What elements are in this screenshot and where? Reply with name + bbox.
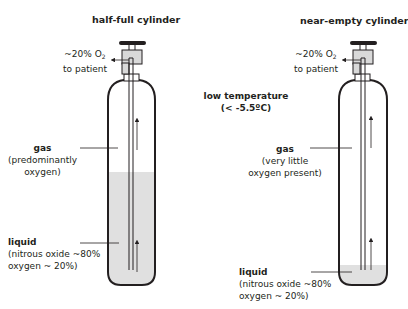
gas-desc: (predominantly [8, 155, 77, 165]
valve-outlet [353, 63, 360, 74]
gas-desc: (very little [262, 156, 308, 166]
liquid-fill [108, 172, 155, 285]
liquid-desc: oxygen ~ 20%) [8, 261, 78, 271]
dip-tube [361, 58, 365, 270]
outlet-destination: to patient [294, 64, 338, 74]
outlet-destination: to patient [63, 64, 107, 74]
temperature-note-line1: low temperature [196, 90, 296, 102]
cylinder-neck [355, 74, 370, 81]
gas-title: gas [276, 144, 294, 154]
left-gas-label: gas (predominantly oxygen) [5, 142, 80, 178]
liquid-title: liquid [8, 237, 37, 247]
outlet-subscript: 2 [333, 53, 337, 60]
liquid-desc: (nitrous oxide ~80% [8, 249, 100, 259]
liquid-title: liquid [239, 267, 268, 277]
left-outlet-label: ~20% O2 to patient [60, 48, 110, 75]
right-liquid-label: liquid (nitrous oxide ~80% oxygen ~ 20%) [239, 266, 331, 302]
handwheel [350, 41, 377, 45]
liquid-fill [339, 265, 387, 285]
liquid-desc: (nitrous oxide ~80% [239, 279, 331, 289]
valve-block [122, 50, 142, 64]
left-liquid-label: liquid (nitrous oxide ~80% oxygen ~ 20%) [8, 236, 100, 272]
cylinder-neck [124, 74, 139, 81]
outlet-subscript: 2 [102, 53, 106, 60]
gas-title: gas [34, 143, 52, 153]
gas-desc: oxygen) [24, 167, 60, 177]
right-gas-label: gas (very little oxygen present) [235, 143, 335, 179]
outlet-text: ~20% O [64, 49, 102, 59]
cylinder-body [339, 80, 387, 285]
valve-outlet [122, 63, 129, 74]
liquid-desc: oxygen ~ 20%) [239, 291, 309, 301]
right-cylinder-title: near-empty cylinder [300, 15, 408, 27]
right-outlet-label: ~20% O2 to patient [291, 48, 341, 75]
outlet-text: ~20% O [295, 49, 333, 59]
handwheel [119, 41, 146, 45]
valve-block [353, 50, 373, 64]
gas-desc: oxygen present) [248, 168, 321, 178]
temperature-note-line2: (< -5.5ºC) [196, 102, 296, 114]
left-cylinder-title: half-full cylinder [92, 14, 180, 26]
